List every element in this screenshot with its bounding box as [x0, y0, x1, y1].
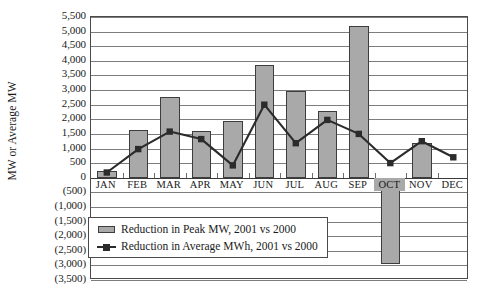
y-axis-title: MW or Average MW: [2, 46, 22, 216]
y-axis-tick-label: (1,000): [55, 200, 86, 211]
y-axis-tick-label: (1,500): [55, 215, 86, 226]
legend-item-label: Reduction in Peak MW, 2001 vs 2000: [117, 222, 296, 237]
bar-swatch-icon: [95, 223, 117, 237]
legend-item-average-mwh: Reduction in Average MWh, 2001 vs 2000: [95, 238, 321, 255]
line-path: [107, 105, 454, 173]
y-axis-tick-labels: 5,5005,0004,5004,0003,5003,0002,5002,000…: [22, 0, 90, 299]
y-axis-tick-label: (2,000): [55, 229, 86, 240]
chart-legend: Reduction in Peak MW, 2001 vs 2000 Reduc…: [88, 217, 328, 258]
legend-item-label: Reduction in Average MWh, 2001 vs 2000: [117, 239, 318, 254]
x-axis-label-jun: JUN: [248, 178, 280, 191]
y-axis-tick-label: (3,000): [55, 258, 86, 269]
y-axis-tick-label: 1,500: [62, 127, 86, 138]
x-axis-label-jan: JAN: [90, 178, 122, 191]
y-axis-tick-label: 1,000: [62, 142, 86, 153]
x-axis-label-apr: APR: [185, 178, 217, 191]
line-marker-apr: [198, 136, 204, 142]
y-axis-tick-label: (2,500): [55, 244, 86, 255]
y-axis-tick-label: (3,500): [55, 273, 86, 284]
y-axis-title-text: MW or Average MW: [6, 81, 18, 180]
line-marker-nov: [419, 138, 425, 144]
line-marker-may: [230, 162, 236, 168]
x-axis-label-dec: DEC: [437, 178, 469, 191]
line-marker-jun: [261, 102, 267, 108]
line-marker-icon: [95, 240, 117, 254]
y-axis-tick-label: 0: [81, 171, 86, 182]
gridline: [91, 280, 467, 281]
y-axis-tick-label: 4,000: [62, 54, 86, 65]
y-axis-tick-label: 5,500: [62, 10, 86, 21]
y-axis-tick-label: 2,500: [62, 98, 86, 109]
x-axis-label-nov: NOV: [405, 178, 437, 191]
x-axis-label-oct: OCT: [374, 178, 406, 191]
x-axis-label-may: MAY: [216, 178, 248, 191]
x-axis-label-mar: MAR: [153, 178, 185, 191]
line-marker-dec: [450, 154, 456, 160]
x-axis-category-labels: JANFEBMARAPRMAYJUNJULAUGSEPOCTNOVDEC: [90, 178, 468, 192]
x-axis-label-feb: FEB: [122, 178, 154, 191]
y-axis-tick-label: (500): [63, 185, 86, 196]
line-marker-sep: [356, 131, 362, 137]
line-marker-oct: [387, 160, 393, 166]
line-marker-jul: [293, 140, 299, 146]
y-axis-tick-label: 5,000: [62, 25, 86, 36]
line-marker-mar: [167, 128, 173, 134]
legend-item-peak-mw: Reduction in Peak MW, 2001 vs 2000: [95, 221, 321, 238]
y-axis-tick-label: 4,500: [62, 39, 86, 50]
x-axis-label-jul: JUL: [279, 178, 311, 191]
line-marker-feb: [135, 146, 141, 152]
x-axis-label-aug: AUG: [311, 178, 343, 191]
chart-figure: MW or Average MW 5,5005,0004,5004,0003,5…: [0, 0, 478, 299]
y-axis-tick-label: 2,000: [62, 112, 86, 123]
line-marker-jan: [104, 169, 110, 175]
y-axis-tick-label: 3,000: [62, 83, 86, 94]
y-axis-tick-label: 500: [70, 156, 86, 167]
line-marker-aug: [324, 117, 330, 123]
y-axis-tick-label: 3,500: [62, 68, 86, 79]
x-axis-label-sep: SEP: [342, 178, 374, 191]
